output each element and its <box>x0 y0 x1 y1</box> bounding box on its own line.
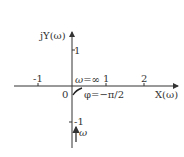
phase-label: φ=−π/2 <box>84 89 124 100</box>
nyquist-diagram: jY(ω) X(ω) 0 -1 1 2 1 -1 ω=∞ φ=−π/2 ω <box>0 0 184 157</box>
x-tick-label: 2 <box>141 73 147 84</box>
x-tick-label: -1 <box>33 73 43 84</box>
omega-inf-label: ω=∞ <box>75 74 100 85</box>
omega-label: ω <box>79 127 87 138</box>
origin-label: 0 <box>62 89 68 100</box>
y-tick-label: 1 <box>74 45 80 56</box>
x-tick-label: 1 <box>103 73 109 84</box>
y-axis-label: jY(ω) <box>39 30 66 41</box>
x-axis-label: X(ω) <box>155 89 178 100</box>
nyquist-curve <box>73 88 82 95</box>
y-tick-label: -1 <box>74 116 84 127</box>
